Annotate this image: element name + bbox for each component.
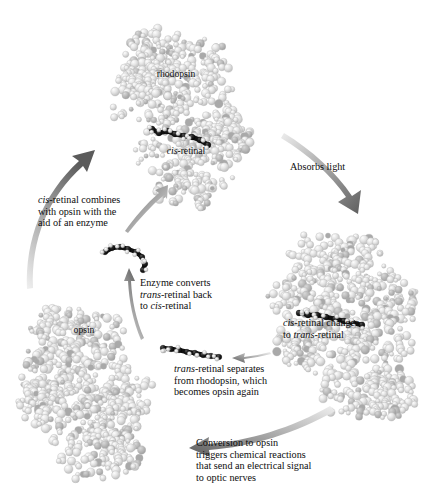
caption-absorbs-light: Absorbs light [290, 161, 345, 173]
free-cis-retinal [100, 243, 148, 272]
arrow-cis-into-rhodopsin [125, 185, 168, 233]
label-opsin: opsin [62, 324, 106, 335]
rhodopsin-protein [110, 24, 254, 211]
caption-cis-retinal-combines: cis-retinal combineswith opsin with thea… [38, 194, 120, 229]
label-rhodopsin: rhodopsin [141, 68, 211, 79]
protein-structures [16, 24, 418, 483]
caption-trans-retinal-separates: trans-retinal separatesfrom rhodopsin, w… [174, 363, 267, 398]
caption-conversion-to-opsin: Conversion to opsintriggers chemical rea… [196, 437, 311, 483]
arrow-trans-separates [232, 352, 271, 363]
arrow-absorbs-light [281, 133, 361, 214]
rhodopsin-cycle-diagram: rhodopsin cis-retinal opsin Absorbs ligh… [0, 0, 433, 503]
free-trans-retinal [160, 345, 222, 361]
caption-enzyme-converts: Enzyme convertstrans-retinal backto cis-… [140, 277, 212, 312]
diagram-canvas [0, 0, 433, 503]
label-cis-retinal: cis-retinal [156, 145, 216, 156]
caption-cis-changes-to-trans: cis-retinal changesto trans-retinal [283, 317, 359, 340]
